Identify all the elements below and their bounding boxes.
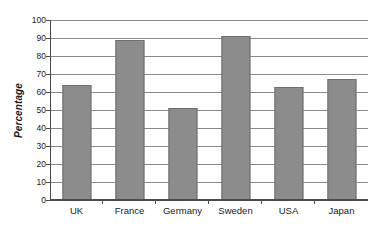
x-axis-tick-label: UK (50, 204, 103, 222)
bar-slot (262, 20, 315, 200)
y-axis-tick-label: 70 (37, 69, 46, 79)
y-axis-tick-label: 60 (37, 87, 46, 97)
bar (327, 79, 356, 200)
plot-area (50, 20, 368, 200)
y-axis-tick-label: 50 (37, 105, 46, 115)
bar-slot (156, 20, 209, 200)
bar (168, 108, 197, 200)
bar (62, 85, 91, 200)
y-axis-tick-labels: 0102030405060708090100 (22, 20, 46, 200)
bar-slot (103, 20, 156, 200)
x-axis-tick-label: Sweden (209, 204, 262, 222)
bar (221, 36, 250, 200)
bar (274, 87, 303, 200)
y-axis-tick-label: 100 (32, 15, 46, 25)
gridline (50, 200, 368, 201)
y-axis-tick-label: 90 (37, 33, 46, 43)
y-axis-tick-label: 30 (37, 141, 46, 151)
y-axis-tick-label: 10 (37, 177, 46, 187)
x-axis-tick-label: Japan (315, 204, 368, 222)
bar-slot (315, 20, 368, 200)
bar-slot (50, 20, 103, 200)
y-axis-tick-label: 20 (37, 159, 46, 169)
x-axis-line (50, 199, 368, 200)
x-axis-tick-label: France (103, 204, 156, 222)
x-axis-tick-label: USA (262, 204, 315, 222)
x-axis-tick-label: Germany (156, 204, 209, 222)
bar-series (50, 20, 368, 200)
y-axis-tick-label: 40 (37, 123, 46, 133)
y-axis-tick-mark (46, 200, 50, 201)
y-axis-tick-label: 80 (37, 51, 46, 61)
bar (115, 40, 144, 200)
bar-slot (209, 20, 262, 200)
x-axis-tick-labels: UKFranceGermanySwedenUSAJapan (50, 204, 368, 222)
bar-chart: Percentage 0102030405060708090100 UKFran… (0, 0, 384, 239)
